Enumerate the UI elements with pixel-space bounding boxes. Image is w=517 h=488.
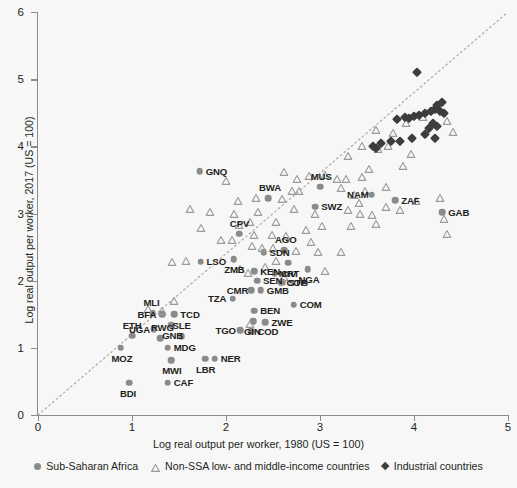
y-tick-label: 0 [8,409,24,421]
data-point-nonssa [398,162,407,170]
y-tick [31,146,37,147]
data-point-nonssa [248,242,257,250]
chart-legend: Sub-Saharan AfricaNon-SSA low- and middl… [0,460,517,472]
point-label-gnq: GNQ [206,166,228,177]
data-point-nonssa [181,257,190,265]
legend-label: Sub-Saharan Africa [46,460,138,472]
data-point-industrial [430,134,439,143]
data-point-nonssa [344,152,353,160]
point-label-bwa: BWA [259,182,281,193]
point-label-cmr: CMR [227,285,249,296]
data-point-nonssa [196,224,205,232]
x-tick-label: 2 [216,421,236,433]
data-point-nonssa [347,222,356,230]
point-label-cpv: CPV [230,218,249,229]
data-point-nonssa [295,187,304,195]
data-point-nonssa [227,236,236,244]
reference-line-45deg [38,12,508,415]
data-point-nonssa [280,168,289,176]
legend-item-2[interactable]: Industrial countries [382,460,482,472]
x-axis-label: Log real output per worker, 1980 (US = 1… [0,438,517,450]
data-point-nonssa [342,175,351,183]
data-point-ssa [196,168,203,175]
data-point-nonssa [372,220,381,228]
point-label-sdn: SDN [270,247,290,258]
data-point-ssa [317,183,324,190]
data-point-nonssa [278,195,287,203]
y-tick-label: 2 [8,275,24,287]
y-axis-label: Log real output per worker, 2017 (US = 1… [23,95,35,345]
data-point-nonssa [372,126,381,134]
point-label-moz: MOZ [111,353,132,364]
legend-label: Industrial countries [394,460,483,472]
point-label-ner: NER [221,353,241,364]
data-point-ssa [202,355,209,362]
data-point-ssa [248,287,255,294]
data-point-nonssa [367,211,376,219]
point-label-rwg: RWG [151,322,174,333]
x-axis-line [38,415,509,416]
data-point-nonssa [336,248,345,256]
data-point-nonssa [364,165,373,173]
x-tick-label: 1 [122,421,142,433]
data-point-nonssa [217,236,226,244]
point-label-lbr: LBR [196,364,215,375]
data-point-ssa [285,259,292,266]
data-point-ssa [254,277,261,284]
data-point-ssa [237,327,244,334]
data-point-ssa [290,302,297,309]
data-point-ssa [164,345,171,352]
y-tick-label: 5 [8,73,24,85]
point-label-com: COM [300,299,322,310]
triangle-icon [151,462,160,470]
y-tick [31,348,37,349]
data-point-nonssa [442,230,451,238]
y-tick-label: 6 [8,6,24,18]
diamond-icon [381,461,390,470]
y-tick [31,415,37,416]
point-label-ben: BEN [260,305,280,316]
point-label-mli: MLI [143,297,159,308]
data-point-ssa [164,379,171,386]
point-label-swz: SWZ [321,201,342,212]
data-point-ssa [197,259,204,266]
data-point-nonssa [222,177,231,185]
data-point-nonssa [252,194,261,202]
scatter-chart: Log real output per worker, 2017 (US = 1… [0,0,517,488]
data-point-industrial [395,136,404,145]
y-tick-label: 4 [8,140,24,152]
data-point-nonssa [291,247,300,255]
point-label-sle: SLE [173,320,191,331]
data-point-nonssa [306,238,315,246]
data-point-nonssa [381,203,390,211]
data-point-ssa [265,195,272,202]
x-tick-label: 3 [310,421,330,433]
legend-item-1[interactable]: Non-SSA low- and middle-income countries [151,460,369,472]
y-tick [31,214,37,215]
point-label-zmb: ZMB [224,264,244,275]
y-tick [31,79,37,80]
data-point-nonssa [395,206,404,214]
data-point-nonssa [206,208,215,216]
data-point-nonssa [158,307,167,315]
data-point-ssa [230,256,237,263]
point-label-tcd: TCD [180,309,199,320]
data-point-nonssa [168,258,177,266]
point-label-tgo: TGO [216,325,237,336]
plot-area: GNQCPVZMBLSOKENSENGMBCMRTZACIVCOGSTPSDNM… [38,12,508,415]
y-tick [31,12,37,13]
data-point-ssa [392,197,399,204]
data-point-nonssa [381,183,390,191]
data-point-ssa [229,296,236,303]
data-point-nonssa [407,150,416,158]
data-point-nonssa [253,208,262,216]
point-label-mus: MUS [311,171,332,182]
legend-item-0[interactable]: Sub-Saharan Africa [34,460,138,472]
data-point-nonssa [358,142,367,150]
data-point-nonssa [257,244,266,252]
data-point-nonssa [442,117,451,125]
point-label-ago: AGO [275,234,297,245]
data-point-nonssa [358,173,367,181]
data-point-nonssa [230,210,239,218]
x-tick-label: 5 [498,421,517,433]
